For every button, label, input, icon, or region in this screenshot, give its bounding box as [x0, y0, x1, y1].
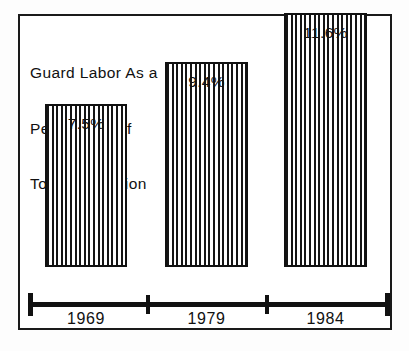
x-axis-line — [28, 302, 390, 307]
x-axis-end-cap-right — [385, 293, 390, 316]
category-label-1979: 1979 — [165, 310, 248, 328]
bar-1979 — [165, 62, 248, 267]
chart-title-line-1: Guard Labor As a — [30, 64, 158, 83]
category-label-1984: 1984 — [284, 310, 367, 328]
x-axis-tick-1 — [146, 295, 150, 314]
chart-screenshot: Guard Labor As a Percentage of Total Pop… — [0, 0, 409, 351]
bar-1984 — [284, 13, 367, 267]
x-axis-end-cap-left — [28, 293, 33, 316]
plot-area: Guard Labor As a Percentage of Total Pop… — [18, 14, 392, 330]
category-label-1969: 1969 — [45, 310, 127, 328]
value-label-1969: 7.5% — [45, 115, 127, 133]
value-label-1984: 11.6% — [284, 24, 367, 42]
value-label-1979: 9.4% — [165, 73, 248, 91]
x-axis-tick-2 — [265, 295, 269, 314]
